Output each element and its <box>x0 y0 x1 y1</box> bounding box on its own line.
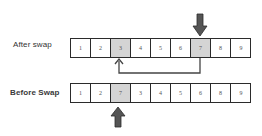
array-cell: 1 <box>71 84 91 102</box>
array-cell: 8 <box>211 84 231 102</box>
down-arrow-icon <box>193 14 207 36</box>
up-arrow-icon <box>111 107 125 127</box>
after-swap-label: After swap <box>13 40 52 49</box>
before-swap-label: Before Swap <box>10 88 60 97</box>
array-cell: 4 <box>151 84 171 102</box>
array-cell: 3 <box>131 84 151 102</box>
array-cell: 6 <box>171 39 191 57</box>
array-cell: 1 <box>71 39 91 57</box>
arrows-overlay <box>0 0 262 136</box>
array-cell-highlighted: 3 <box>111 39 131 57</box>
array-cell-highlighted: 7 <box>111 84 131 102</box>
array-cell: 4 <box>131 39 151 57</box>
array-cell-highlighted: 7 <box>191 39 211 57</box>
array-cell: 2 <box>91 39 111 57</box>
swap-connector-arrow-icon <box>115 58 200 73</box>
array-cell: 9 <box>231 84 251 102</box>
array-cell: 5 <box>171 84 191 102</box>
after-swap-array: 1 2 3 4 5 6 7 8 9 <box>70 38 251 58</box>
array-cell: 2 <box>91 84 111 102</box>
array-cell: 8 <box>211 39 231 57</box>
array-cell: 9 <box>231 39 251 57</box>
array-cell: 5 <box>151 39 171 57</box>
array-cell: 6 <box>191 84 211 102</box>
before-swap-array: 1 2 7 3 4 5 6 8 9 <box>70 83 251 103</box>
